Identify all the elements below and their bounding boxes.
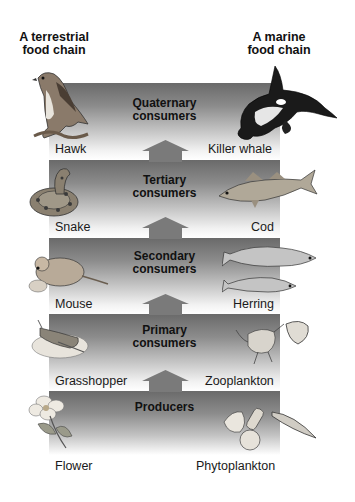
terrestrial-header: A terrestrial food chain xyxy=(14,31,94,57)
up-arrow-icon xyxy=(142,370,189,392)
marine-header: A marine food chain xyxy=(244,31,314,57)
label-mouse: Mouse xyxy=(55,297,93,311)
label-cod: Cod xyxy=(251,220,274,234)
label-snake: Snake xyxy=(55,220,90,234)
marine-header-line2: food chain xyxy=(244,44,314,57)
up-arrow-icon xyxy=(142,294,189,315)
up-arrow-icon xyxy=(142,217,189,239)
snake-illustration xyxy=(26,164,86,219)
label-flower: Flower xyxy=(55,459,93,473)
grasshopper-illustration xyxy=(28,318,98,360)
label-killer-whale: Killer whale xyxy=(208,142,272,156)
hawk-illustration xyxy=(30,66,95,146)
zooplankton-illustration xyxy=(228,318,318,368)
label-zooplankton: Zooplankton xyxy=(205,374,274,388)
cod-illustration xyxy=(215,166,320,211)
phytoplankton-illustration xyxy=(222,400,322,456)
label-phytoplankton: Phytoplankton xyxy=(196,459,275,473)
killer-whale-illustration xyxy=(225,64,340,142)
up-arrow-icon xyxy=(142,140,189,162)
label-grasshopper: Grasshopper xyxy=(55,374,127,388)
label-herring: Herring xyxy=(233,297,274,311)
label-hawk: Hawk xyxy=(55,142,86,156)
flower-illustration xyxy=(26,394,81,450)
mouse-illustration xyxy=(26,250,111,298)
herring-illustration xyxy=(222,240,322,300)
terrestrial-header-line2: food chain xyxy=(14,44,94,57)
